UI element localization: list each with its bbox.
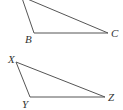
- vertex-label-y: Y: [22, 98, 30, 110]
- triangle-abc: B C: [22, 0, 119, 45]
- vertex-label-b: B: [25, 33, 32, 45]
- edge-apex-c: [25, 0, 108, 33]
- triangles-diagram: B C X Y Z: [0, 0, 123, 110]
- edge-x-z: [16, 62, 105, 97]
- triangle-xyz: X Y Z: [7, 53, 115, 110]
- edge-apex-b: [22, 0, 34, 33]
- vertex-label-c: C: [111, 27, 119, 39]
- edge-x-y: [16, 62, 30, 97]
- vertex-label-z: Z: [108, 91, 115, 103]
- vertex-label-x: X: [7, 53, 16, 65]
